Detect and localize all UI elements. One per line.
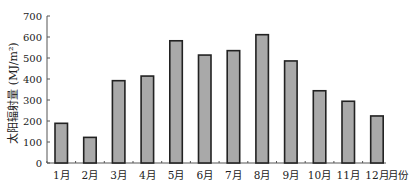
y-tick-label: 600 [23, 32, 42, 43]
solar-radiation-bar-chart: 太阳辐射量 (MJ/m²) 0100200300400500600700 1月2… [0, 0, 417, 191]
bar-1 [55, 123, 68, 163]
x-tick-label: 10月 [308, 167, 331, 182]
x-tick-label: 7月 [225, 167, 242, 182]
x-tick-label: 6月 [196, 167, 213, 182]
bar-2 [84, 137, 97, 163]
bar-7 [227, 51, 240, 163]
x-tick-label: 8月 [254, 167, 271, 182]
x-axis-title: 月份 [388, 167, 408, 182]
x-tick-label: 1月 [53, 167, 70, 182]
y-tick-label: 300 [23, 95, 42, 106]
bar-4 [141, 76, 154, 163]
y-tick-label: 400 [23, 74, 42, 85]
bar-5 [170, 41, 183, 163]
x-tick-label: 9月 [283, 167, 300, 182]
x-tick-label: 2月 [82, 167, 99, 182]
bar-3 [112, 81, 125, 163]
plot-area [0, 0, 417, 191]
bar-12 [371, 116, 384, 163]
y-tick-label: 100 [23, 137, 42, 148]
x-tick-label: 11月 [337, 167, 360, 182]
x-tick-label: 3月 [110, 167, 127, 182]
y-tick-label: 200 [23, 116, 42, 127]
x-tick-label: 12月 [365, 167, 388, 182]
y-tick-label: 700 [23, 11, 42, 22]
x-tick-label: 5月 [168, 167, 185, 182]
y-axis-title: 太阳辐射量 (MJ/m²) [4, 42, 20, 143]
bar-10 [313, 91, 326, 163]
bar-6 [199, 55, 212, 163]
bar-9 [285, 61, 298, 163]
x-tick-label: 4月 [139, 167, 156, 182]
bar-8 [256, 35, 269, 163]
y-tick-label: 0 [36, 158, 42, 169]
y-tick-label: 500 [23, 53, 42, 64]
bar-11 [342, 101, 355, 163]
